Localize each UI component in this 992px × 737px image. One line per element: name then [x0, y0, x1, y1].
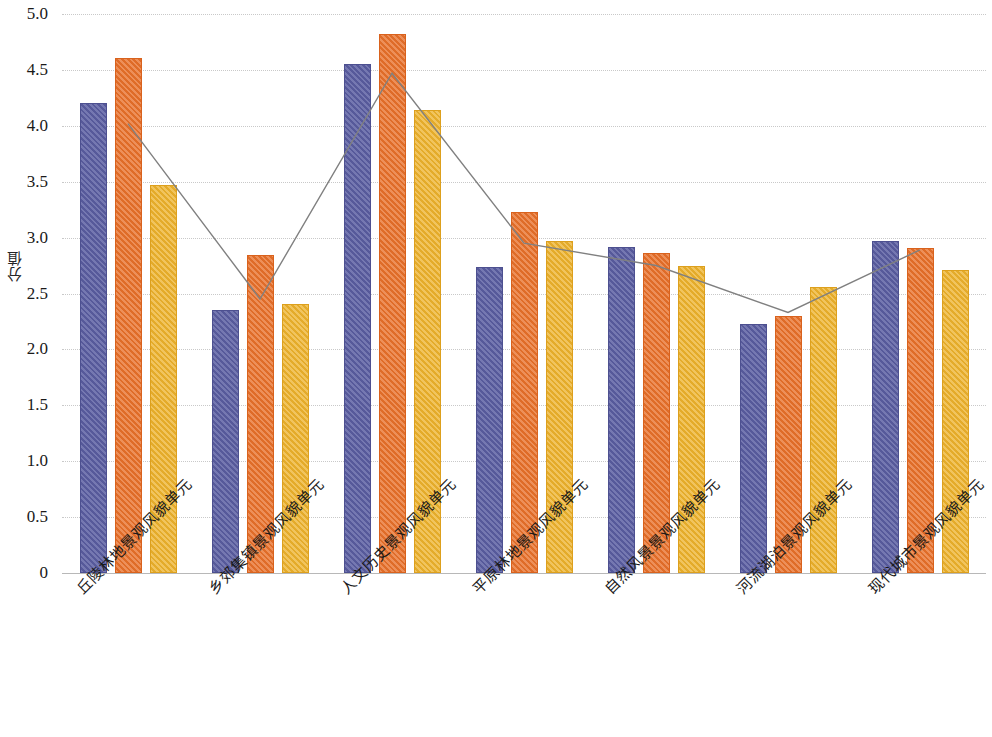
bar — [379, 34, 406, 573]
bar — [344, 64, 371, 573]
bar — [115, 58, 142, 573]
y-axis-tick-label: 0.5 — [27, 507, 48, 527]
y-axis-tick-label: 5.0 — [27, 4, 48, 24]
y-axis-tick-label: 3.5 — [27, 172, 48, 192]
gridline — [62, 126, 986, 127]
x-axis-line — [62, 573, 986, 574]
bar — [80, 103, 107, 573]
y-axis-tick-label: 2.0 — [27, 339, 48, 359]
gridline — [62, 14, 986, 15]
y-axis-tick-label: 1.5 — [27, 395, 48, 415]
y-axis-tick-label: 2.5 — [27, 284, 48, 304]
bar — [872, 241, 899, 573]
y-axis-title: 分值 — [4, 250, 25, 282]
gridline — [62, 182, 986, 183]
bar — [608, 247, 635, 573]
chart-canvas: 分值 5.04.54.03.53.02.52.01.51.00.50 丘陵林地景… — [0, 0, 992, 737]
y-axis-tick-label: 4.0 — [27, 116, 48, 136]
y-axis-tick-label: 3.0 — [27, 228, 48, 248]
gridline — [62, 70, 986, 71]
y-axis-tick-label: 1.0 — [27, 451, 48, 471]
bar — [740, 324, 767, 573]
bar — [282, 304, 309, 573]
y-axis-tick-label: 0 — [40, 563, 49, 583]
bar — [476, 267, 503, 573]
bar — [212, 310, 239, 573]
y-axis-tick-label: 4.5 — [27, 60, 48, 80]
